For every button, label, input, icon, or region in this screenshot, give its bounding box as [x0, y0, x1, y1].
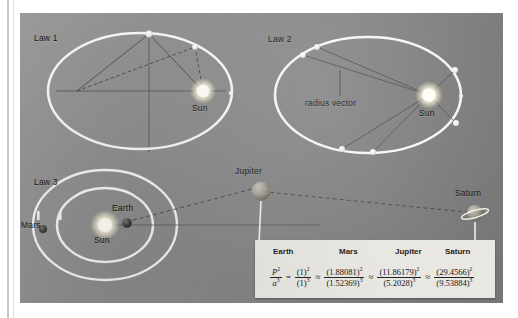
equation-earth-denominator-value: (1) — [297, 278, 307, 288]
equation-earth-numerator-exponent: 2 — [307, 266, 310, 272]
equation-jupiter-denominator-value: (5.2028) — [383, 278, 412, 288]
equation-jupiter-numerator-exponent: 2 — [417, 266, 420, 272]
equation-mars-denominator: (1.52369)3 — [324, 278, 364, 288]
equation-lhs-denominator: a3 — [270, 278, 281, 288]
law3-sun-label: Sun — [94, 235, 110, 245]
radius-vector-label: radius vector — [305, 98, 356, 108]
equation-approx-sign-1: ≈ — [312, 272, 323, 282]
saturn-label: Saturn — [455, 188, 481, 198]
law3-earth-orbit-tick — [59, 211, 62, 220]
law3-sightline-to-saturn — [256, 191, 475, 213]
law1-focus1-to-planet-right-dashed — [77, 47, 195, 91]
law3-title: Law 3 — [34, 177, 58, 187]
law2-planet-marker-3 — [339, 146, 345, 152]
page-gutter-rule — [7, 0, 9, 318]
keplers-laws-figure-panel: Law 1 Sun Law 2 radius vector Sun Law 3 … — [20, 13, 503, 303]
law2-orbit-node-right — [459, 94, 463, 98]
equation-mars-numerator-exponent: 2 — [360, 266, 363, 272]
equation-jupiter-denominator-exponent: 3 — [413, 277, 416, 283]
equation-equals-sign: = — [283, 272, 294, 282]
law2-radius-vector-2 — [303, 55, 429, 95]
equation-earth-denominator-exponent: 3 — [307, 277, 310, 283]
equation-jupiter-fraction: (11.86179)2 (5.2028)3 — [376, 267, 422, 288]
equation-saturn-numerator: (29.4566)2 — [434, 267, 474, 278]
law3-mars-orbit-tick — [37, 211, 40, 220]
equation-jupiter-numerator: (11.86179)2 — [377, 267, 421, 278]
equation-jupiter-denominator: (5.2028)3 — [381, 278, 417, 288]
equation-mars-numerator-value: (1.88081) — [326, 266, 359, 276]
table-column-header-mars: Mars — [339, 247, 358, 256]
law2-planet-marker-1 — [314, 44, 320, 50]
earth-label: Earth — [112, 203, 133, 213]
equation-earth-denominator: (1)3 — [295, 278, 312, 288]
law3-jupiter-body — [252, 182, 271, 201]
equation-saturn-denominator: (9.53884)3 — [434, 278, 474, 288]
equation-saturn-fraction: (29.4566)2 (9.53884)3 — [433, 267, 475, 288]
law3-jupiter-drop-line — [259, 201, 261, 243]
law2-radius-vector-1 — [317, 47, 429, 95]
equation-mars-fraction: (1.88081)2 (1.52369)3 — [323, 267, 365, 288]
law2-planet-marker-5 — [452, 67, 458, 73]
equation-lhs-numerator-exponent: 2 — [277, 266, 280, 272]
law1-orbit-node-right — [229, 91, 233, 95]
law2-planet-marker-2 — [300, 52, 306, 58]
equation-approx-sign-2: ≈ — [365, 272, 376, 282]
equation-earth-numerator-value: (1) — [297, 266, 307, 276]
equation-earth-fraction: (1)2 (1)3 — [294, 267, 313, 288]
equation-saturn-numerator-exponent: 2 — [470, 266, 473, 272]
law2-sun-core — [422, 88, 435, 101]
law1-planet-marker-top — [146, 31, 153, 38]
equation-lhs-numerator: P2 — [270, 267, 282, 278]
table-column-header-jupiter: Jupiter — [395, 247, 422, 256]
law2-title: Law 2 — [268, 34, 292, 44]
law2-group — [275, 37, 463, 155]
equation-saturn-denominator-exponent: 3 — [470, 277, 473, 283]
law3-sun-core — [98, 218, 112, 232]
equation-lhs-denominator-exponent: 3 — [277, 277, 280, 283]
law2-planet-marker-4 — [370, 149, 376, 155]
law1-group — [48, 31, 233, 152]
keplers-third-law-table: Earth Mars Jupiter Saturn P2 a3 = (1)2 (… — [255, 240, 495, 298]
keplers-third-law-equation: P2 a3 = (1)2 (1)3 ≈ (1.88081)2 (1.52369)… — [269, 261, 475, 293]
law1-planet-marker-right — [192, 44, 198, 50]
law1-title: Law 1 — [34, 33, 58, 43]
equation-saturn-denominator-value: (9.53884) — [436, 278, 469, 288]
equation-saturn-numerator-value: (29.4566) — [436, 266, 469, 276]
figure-page: Law 1 Sun Law 2 radius vector Sun Law 3 … — [0, 0, 518, 318]
jupiter-label: Jupiter — [235, 166, 262, 176]
mars-label: Mars — [21, 220, 41, 230]
law2-sun-label: Sun — [419, 108, 435, 118]
equation-jupiter-numerator-value: (11.86179) — [379, 266, 416, 276]
law2-planet-marker-6 — [453, 120, 459, 126]
table-column-header-earth: Earth — [273, 247, 293, 256]
page-gutter-rule-secondary — [13, 0, 14, 318]
law1-sun-label: Sun — [192, 103, 208, 113]
law1-sun-core — [197, 85, 209, 97]
equation-mars-denominator-value: (1.52369) — [326, 278, 359, 288]
equation-lhs-fraction: P2 a3 — [269, 267, 283, 288]
table-column-header-saturn: Saturn — [445, 247, 470, 256]
equation-mars-denominator-exponent: 3 — [360, 277, 363, 283]
law3-earth-body — [122, 218, 132, 228]
equation-mars-numerator: (1.88081)2 — [324, 267, 364, 278]
equation-approx-sign-3: ≈ — [422, 272, 433, 282]
equation-earth-numerator: (1)2 — [295, 267, 312, 278]
